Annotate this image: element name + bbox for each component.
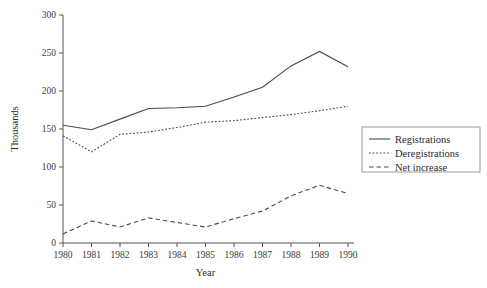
series-line-net-increase [63, 185, 348, 234]
x-axis-tick-label: 1984 [168, 250, 187, 260]
legend-label: Net increase [395, 162, 448, 173]
axis-labels-layer: 0501001502002503001980198119821983198419… [9, 10, 358, 278]
x-axis-tick-label: 1981 [82, 250, 101, 260]
x-axis-tick-label: 1989 [310, 250, 329, 260]
data-series-layer [63, 51, 348, 233]
chart-figure: 0501001502002503001980198119821983198419… [0, 0, 487, 288]
legend-label: Deregistrations [395, 148, 459, 159]
x-axis-tick-label: 1988 [282, 250, 301, 260]
series-line-deregistrations [63, 106, 348, 152]
series-line-registrations [63, 51, 348, 129]
x-axis-tick-label: 1987 [253, 250, 272, 260]
legend-label: Registrations [395, 134, 450, 145]
line-chart: 0501001502002503001980198119821983198419… [0, 0, 487, 288]
y-axis-tick-label: 250 [42, 48, 57, 58]
x-axis-tick-label: 1985 [196, 250, 215, 260]
y-axis-tick-label: 200 [42, 86, 57, 96]
x-axis-tick-label: 1983 [139, 250, 158, 260]
y-axis-title: Thousands [9, 106, 20, 152]
y-axis-tick-label: 50 [47, 200, 57, 210]
axes [59, 15, 354, 247]
chart-legend: RegistrationsDeregistrationsNet increase [362, 127, 480, 173]
y-axis-tick-label: 150 [42, 124, 57, 134]
x-axis-tick-label: 1980 [54, 250, 73, 260]
x-axis-tick-label: 1982 [111, 250, 130, 260]
y-axis-tick-label: 300 [42, 10, 57, 20]
x-axis-title: Year [196, 267, 216, 278]
y-axis-tick-label: 100 [42, 162, 57, 172]
x-axis-tick-label: 1986 [225, 250, 244, 260]
x-axis-tick-label: 1990 [339, 250, 358, 260]
y-axis-tick-label: 0 [51, 238, 56, 248]
